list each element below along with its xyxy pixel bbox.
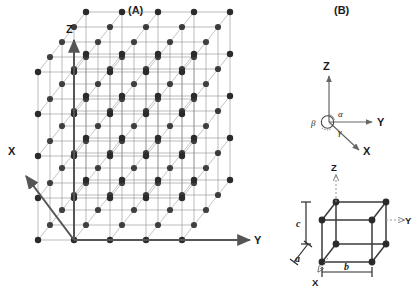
param-b-label: b — [344, 261, 349, 272]
angle-beta-label: β — [310, 118, 316, 128]
angle-gamma-label: γ — [338, 127, 342, 137]
axis-y-label-b: Y — [377, 116, 385, 128]
axis-x-line-b — [329, 122, 359, 150]
axis-z-label-b: Z — [323, 60, 330, 72]
cell-axis-z-label: Z — [331, 162, 337, 173]
unit-cell-nodes — [319, 199, 390, 266]
panel-b-axes-angles: α β γ Z Y X — [310, 60, 385, 157]
param-a-bar — [290, 241, 312, 265]
axis-x-label-a: X — [8, 145, 16, 157]
panel-a-lattice: Z Y X — [8, 9, 262, 246]
panel-b-unit-cell: Z Y X c a b — [290, 162, 412, 288]
param-a-label: a — [295, 253, 300, 264]
lattice-nodes — [35, 9, 233, 243]
angle-alpha-label: α — [338, 109, 343, 119]
crystal-lattice-figure: (A) (B) — [0, 0, 413, 292]
unit-cell-edges — [322, 202, 386, 262]
figure-canvas: Z Y X α β γ Z Y X — [0, 0, 413, 292]
axis-z-label-a: Z — [66, 23, 73, 35]
param-c-bar — [301, 202, 311, 244]
param-c-label: c — [296, 218, 301, 229]
cell-axis-y-label: Y — [405, 215, 412, 226]
cell-axis-x-label: X — [312, 277, 319, 288]
axis-x-label-b: X — [363, 145, 371, 157]
axis-y-label-a: Y — [254, 234, 262, 246]
